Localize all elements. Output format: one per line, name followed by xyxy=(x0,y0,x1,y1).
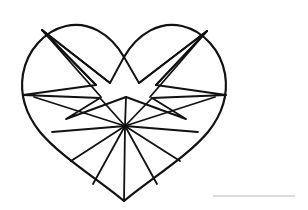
lower-fan-ray-4 xyxy=(124,126,125,201)
heart-star-drawing xyxy=(0,0,308,210)
page-canvas xyxy=(0,0,308,210)
star-hub-connector-0 xyxy=(125,97,126,126)
